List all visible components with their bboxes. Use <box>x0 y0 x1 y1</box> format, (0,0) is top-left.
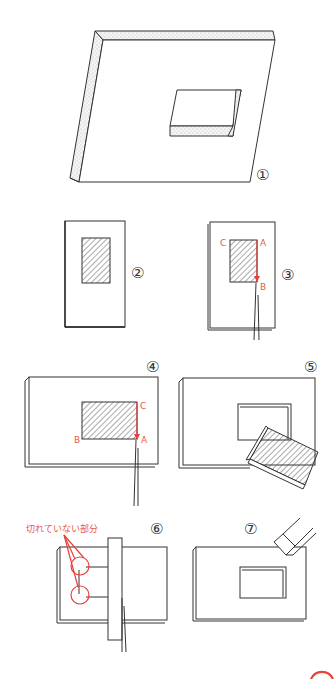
step-4-point-c: C <box>140 401 146 411</box>
step-2-board <box>65 221 125 327</box>
step-1-marker: ① <box>256 166 269 184</box>
instruction-diagram: ① ② C A B ③ C B A ④ <box>0 0 335 679</box>
step-6-marker: ⑥ <box>150 520 163 538</box>
step-5-board <box>179 378 318 489</box>
step-3-point-c: C <box>220 238 226 248</box>
step-4-marker: ④ <box>146 358 159 376</box>
step-1-board <box>70 31 275 182</box>
step-4-point-a: A <box>141 435 148 445</box>
step-3-point-a: A <box>260 238 267 248</box>
step-4-board <box>25 377 158 506</box>
step-3-marker: ③ <box>281 266 294 284</box>
step-5-marker: ⑤ <box>304 358 317 376</box>
step-7-marker: ⑦ <box>244 520 257 538</box>
step-3-point-b: B <box>260 282 266 292</box>
step-6-note-uncut-part: 切れていない部分 <box>26 523 98 534</box>
step-2-marker: ② <box>131 264 144 282</box>
step-6-board <box>57 535 167 652</box>
step-4-point-b: B <box>74 435 80 445</box>
red-circle-mark-icon <box>311 672 333 679</box>
